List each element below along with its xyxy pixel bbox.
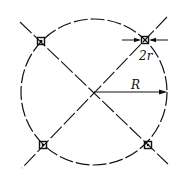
diameter-arrow-right-icon: [149, 38, 156, 42]
diameter-arrow-left-icon: [134, 38, 141, 42]
bolt-circle-diagram: R 2r: [0, 0, 181, 183]
radius-arrowhead-icon: [159, 90, 167, 95]
hole-marker-upper-left: [38, 38, 45, 45]
radius-label: R: [130, 78, 140, 92]
diameter-label: 2r: [138, 49, 154, 63]
